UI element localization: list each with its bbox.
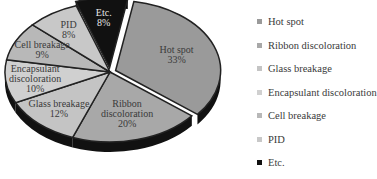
legend-item-pid: PID [257, 128, 377, 152]
legend-item-glass-breakage: Glass breakage [257, 57, 377, 81]
legend-label: Etc. [268, 157, 285, 168]
legend-label: Encapsulant discoloration [268, 87, 377, 98]
legend-item-etc: Etc. [257, 151, 377, 175]
legend-swatch [257, 137, 262, 142]
slice-label: PID8% [61, 19, 77, 40]
legend-label: Hot spot [268, 16, 304, 27]
legend-label: Glass breakage [268, 63, 332, 74]
legend-label: PID [268, 134, 285, 145]
legend-swatch [257, 113, 262, 118]
legend-label: Cell breakage [268, 110, 326, 121]
legend-swatch [257, 160, 262, 165]
legend-swatch [257, 43, 262, 48]
legend-item-ribbon-discoloration: Ribbon discoloration [257, 34, 377, 58]
chart-legend: Hot spot Ribbon discoloration Glass brea… [257, 10, 377, 175]
legend-swatch [257, 19, 262, 24]
slice-label: Etc.8% [96, 7, 112, 28]
legend-swatch [257, 66, 262, 71]
pie-chart: Hot spot33%Ribbondiscoloration20%Glass b… [0, 0, 250, 179]
legend-item-cell-breakage: Cell breakage [257, 104, 377, 128]
legend-item-encapsulant-discoloration: Encapsulant discoloration [257, 81, 377, 105]
legend-item-hot-spot: Hot spot [257, 10, 377, 34]
legend-label: Ribbon discoloration [268, 40, 356, 51]
legend-swatch [257, 90, 262, 95]
